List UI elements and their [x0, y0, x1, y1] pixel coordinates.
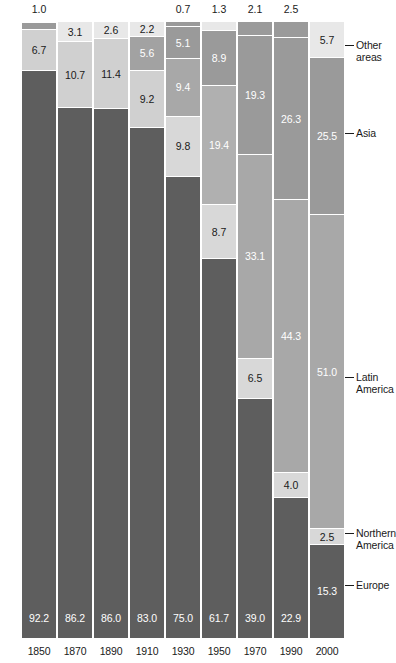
segment-value-label-outside: 2.5	[274, 4, 308, 15]
bar-segment: 9.4	[166, 58, 200, 116]
bar-segment: 8.7	[202, 204, 236, 258]
bar-segment: 25.5	[310, 57, 344, 214]
x-axis-tick-label: 1950	[202, 645, 236, 657]
bar-stack: 6.792.2	[22, 23, 56, 638]
segment-value-label: 15.3	[310, 586, 344, 597]
segment-value-label: 33.1	[238, 251, 272, 262]
legend-label: Asia	[356, 128, 376, 140]
bar-segment: 9.8	[166, 116, 200, 176]
x-axis-tick-label: 1910	[130, 645, 164, 657]
segment-value-label: 19.3	[238, 89, 272, 100]
legend-label: Europe	[356, 580, 389, 592]
segment-value-label-outside: 0.7	[166, 4, 200, 15]
segment-value-label: 22.9	[274, 613, 308, 624]
bar-segment: 8.9	[202, 30, 236, 85]
bar-segment: 86.2	[58, 107, 92, 638]
segment-value-label: 86.2	[58, 613, 92, 624]
bar-segment: 4.0	[274, 472, 308, 497]
bar-segment: 2.2	[130, 22, 164, 36]
bar-segment: 61.7	[202, 258, 236, 638]
legend-label: Other areas	[356, 40, 382, 63]
legend-leader-line	[345, 377, 354, 378]
bar-segment: 19.3	[238, 35, 272, 154]
bar-segment: 22.9	[274, 497, 308, 638]
x-axis-tick-label: 1890	[94, 645, 128, 657]
legend-leader-line	[345, 133, 354, 134]
bar-segment: 26.3	[274, 37, 308, 199]
bar-segment: 6.5	[238, 358, 272, 398]
segment-value-label: 6.5	[238, 373, 272, 384]
bar-segment	[238, 22, 272, 35]
segment-value-label: 5.7	[310, 34, 344, 45]
bar-segment: 51.0	[310, 214, 344, 528]
bar-segment: 75.0	[166, 176, 200, 638]
x-axis-tick-label: 2000	[310, 645, 344, 657]
x-axis-tick-label: 1930	[166, 645, 200, 657]
bar-stack: 5.19.49.875.0	[166, 22, 200, 638]
segment-value-label: 39.0	[238, 613, 272, 624]
bar-segment	[274, 22, 308, 37]
segment-value-label: 44.3	[274, 331, 308, 342]
segment-value-label: 19.4	[202, 140, 236, 151]
x-axis-tick-label: 1990	[274, 645, 308, 657]
segment-value-label: 6.7	[22, 44, 56, 55]
bar-segment: 5.1	[166, 26, 200, 57]
segment-value-label: 11.4	[94, 68, 128, 79]
bar-segment: 10.7	[58, 41, 92, 107]
bar-stack: 3.110.786.2	[58, 22, 92, 638]
bar-segment: 15.3	[310, 544, 344, 638]
x-axis-tick-label: 1850	[22, 645, 56, 657]
bar-segment: 5.7	[310, 22, 344, 57]
segment-value-label: 8.9	[202, 52, 236, 63]
segment-value-label: 9.4	[166, 82, 200, 93]
segment-value-label: 4.0	[274, 480, 308, 491]
segment-value-label: 5.1	[166, 37, 200, 48]
segment-value-label-outside: 1.0	[22, 4, 56, 15]
segment-value-label: 25.5	[310, 131, 344, 142]
segment-value-label: 26.3	[274, 113, 308, 124]
bar-stack: 5.725.551.02.515.3	[310, 22, 344, 638]
segment-value-label: 2.5	[310, 531, 344, 542]
segment-value-label: 75.0	[166, 613, 200, 624]
bar-segment: 3.1	[58, 22, 92, 41]
segment-value-label: 86.0	[94, 613, 128, 624]
legend-leader-line	[345, 533, 354, 534]
segment-value-label: 9.8	[166, 141, 200, 152]
bar-segment: 19.4	[202, 85, 236, 205]
segment-value-label: 83.0	[130, 613, 164, 624]
segment-value-label-outside: 2.1	[238, 4, 272, 15]
segment-value-label: 8.7	[202, 226, 236, 237]
bar-stack: 2.611.486.0	[94, 22, 128, 638]
segment-value-label: 2.6	[94, 25, 128, 36]
segment-value-label: 9.2	[130, 93, 164, 104]
legend-leader-line	[345, 45, 354, 46]
bar-stack: 26.344.34.022.9	[274, 22, 308, 638]
bar-segment: 33.1	[238, 154, 272, 358]
legend-leader-line	[345, 585, 354, 586]
segment-value-label: 5.6	[130, 48, 164, 59]
segment-value-label: 10.7	[58, 69, 92, 80]
segment-value-label: 92.2	[22, 613, 56, 624]
legend-label: Northern America	[356, 528, 396, 551]
bar-segment: 2.6	[94, 22, 128, 38]
bar-segment: 83.0	[130, 127, 164, 638]
x-axis-tick-label: 1970	[238, 645, 272, 657]
bar-segment: 86.0	[94, 108, 128, 638]
bar-segment: 9.2	[130, 70, 164, 127]
bar-segment: 11.4	[94, 38, 128, 108]
bar-stack: 8.919.48.761.7	[202, 22, 236, 638]
bar-segment: 92.2	[22, 70, 56, 638]
bar-segment: 6.7	[22, 29, 56, 70]
x-axis-tick-label: 1870	[58, 645, 92, 657]
bar-segment: 5.6	[130, 36, 164, 70]
segment-value-label: 51.0	[310, 366, 344, 377]
bar-segment	[202, 22, 236, 30]
bar-segment: 39.0	[238, 398, 272, 638]
bar-stack: 2.25.69.283.0	[130, 22, 164, 638]
segment-value-label: 61.7	[202, 613, 236, 624]
segment-value-label: 2.2	[130, 23, 164, 34]
bar-stack: 19.333.16.539.0	[238, 22, 272, 638]
segment-value-label-outside: 1.3	[202, 4, 236, 15]
segment-value-label: 3.1	[58, 26, 92, 37]
